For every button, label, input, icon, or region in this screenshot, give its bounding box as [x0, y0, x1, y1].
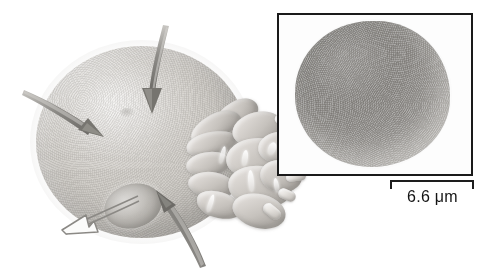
figure-root: 6.6 μm — [0, 0, 484, 273]
arrow-top-inward — [142, 25, 169, 114]
micrograph-cell — [295, 21, 450, 167]
arrow-bottom-inward — [156, 190, 206, 268]
arrow-left-inward — [22, 90, 104, 137]
scale-bar-line — [390, 180, 474, 182]
arrow-layer — [0, 0, 300, 273]
scale-bar-label: 6.6 μm — [385, 188, 480, 206]
inset-micrograph-box — [277, 13, 473, 176]
cell-illustration — [0, 0, 300, 273]
arrow-lower-left-outward — [62, 196, 139, 234]
